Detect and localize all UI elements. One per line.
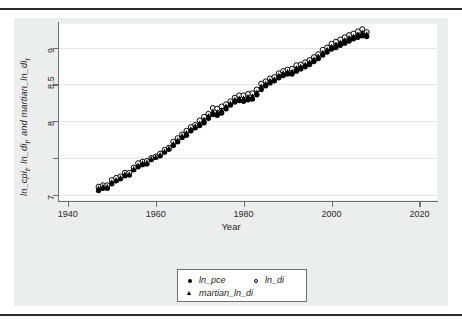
y-axis-title: ln_cpit, ln_dit, and martian_ln_dit — [19, 58, 31, 196]
figure-root: ln_cpit, ln_dit, and martian_ln_dit Year… — [0, 0, 462, 326]
series-ln_pce — [96, 33, 370, 193]
x-axis-title: Year — [0, 221, 462, 232]
x-axis-tick-label: 2000 — [312, 209, 352, 219]
legend-marker-ln-di — [254, 279, 258, 283]
legend-label-ln-di: ln_di — [265, 275, 284, 285]
legend-label-ln-pce: ln_pce — [199, 275, 226, 285]
legend-label-martian-ln-di: martian_ln_di — [199, 288, 253, 298]
y-axis-tick-label: 7 — [46, 195, 56, 200]
x-axis-tick-label: 1960 — [136, 209, 176, 219]
legend-marker-martian-ln-di — [187, 291, 191, 295]
y-axis-tick-label: 9 — [46, 47, 56, 52]
legend-marker-ln-pce — [188, 279, 192, 283]
y-axis-tick-label: 8.5 — [46, 77, 56, 90]
chart-legend: ln_pce ln_di martian_ln_di — [177, 269, 307, 302]
x-axis-tick-label: 2020 — [399, 209, 439, 219]
x-axis-tick-label: 1980 — [224, 209, 264, 219]
x-axis-tick-label: 1940 — [48, 209, 88, 219]
y-axis-tick-label: 8 — [46, 121, 56, 126]
